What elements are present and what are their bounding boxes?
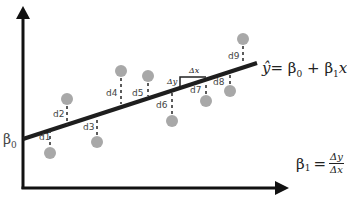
- intercept-label: β0: [3, 131, 17, 150]
- y-axis: [16, 6, 30, 189]
- data-points: [44, 33, 249, 159]
- residual-label-d9: d9: [228, 51, 239, 61]
- slope-beta: β: [296, 155, 305, 173]
- delta-x-label: Δx: [189, 66, 199, 75]
- residual-label-d2: d2: [53, 109, 64, 119]
- residual-label-d6: d6: [156, 100, 167, 110]
- regression-equation: ŷ= β0 + β1x: [262, 59, 347, 79]
- x-axis: [22, 181, 290, 195]
- plus-sign: +: [307, 59, 320, 77]
- data-point: [115, 65, 127, 77]
- data-point: [237, 33, 249, 45]
- regression-line: [23, 63, 257, 139]
- x-var: x: [339, 59, 347, 77]
- y-axis-arrow-icon: [16, 6, 30, 19]
- fraction-denominator: Δx: [330, 164, 343, 176]
- data-point: [224, 85, 236, 97]
- slope-eq: =: [313, 155, 326, 173]
- slope-beta-sub: 1: [305, 163, 311, 173]
- data-point: [200, 95, 212, 107]
- data-point: [61, 93, 73, 105]
- residual-label-d1: d1: [39, 132, 50, 142]
- beta1: β: [324, 59, 333, 77]
- residual-label-d8: d8: [213, 77, 224, 87]
- eq-sign: =: [270, 59, 283, 77]
- residual-dashes: [50, 46, 243, 145]
- data-point: [142, 70, 154, 82]
- data-point: [44, 147, 56, 159]
- intercept-beta: β: [3, 131, 11, 147]
- fraction-numerator: Δy: [329, 151, 344, 164]
- residual-label-d4: d4: [106, 88, 117, 98]
- beta0: β: [288, 59, 297, 77]
- slope-fraction: Δy Δx: [329, 151, 344, 176]
- x-axis-arrow-icon: [275, 181, 289, 195]
- residual-label-d7: d7: [190, 85, 201, 95]
- delta-y-label: Δy: [167, 77, 177, 86]
- slope-formula: β1 = Δy Δx: [296, 151, 344, 176]
- intercept-sub: 0: [11, 140, 17, 150]
- residual-label-d5: d5: [132, 88, 143, 98]
- residual-label-d3: d3: [83, 122, 94, 132]
- regression-diagram: [0, 0, 347, 204]
- data-point: [91, 136, 103, 148]
- beta0-sub: 0: [297, 69, 303, 79]
- data-point: [166, 115, 178, 127]
